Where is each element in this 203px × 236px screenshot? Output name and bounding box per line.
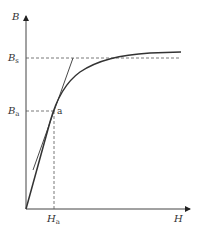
y-axis-label: B xyxy=(11,11,19,22)
bs-label: Bs xyxy=(7,52,19,65)
x-axis-label: H xyxy=(173,213,183,224)
ba-label: Ba xyxy=(7,105,20,118)
bh-curve-diagram: B H Bs Ba Ha a xyxy=(0,0,203,236)
magnetization-curve xyxy=(26,52,181,209)
ha-label: Ha xyxy=(46,213,60,226)
point-a-label: a xyxy=(57,106,63,116)
